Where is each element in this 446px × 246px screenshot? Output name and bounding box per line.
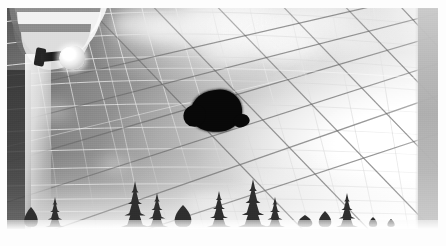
photograph	[7, 8, 438, 229]
photo-frame: Dark object caught in an overhead net ca…	[0, 0, 446, 246]
film-grain	[7, 8, 438, 229]
